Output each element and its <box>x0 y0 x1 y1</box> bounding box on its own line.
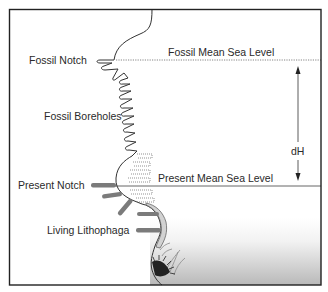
label-fossil-mean-sea-level: Fossil Mean Sea Level <box>168 47 274 58</box>
label-present-mean-sea-level: Present Mean Sea Level <box>158 173 273 184</box>
fossil-boreholes-dotted <box>128 154 154 202</box>
label-fossil-notch: Fossil Notch <box>29 55 87 66</box>
label-dh: dH <box>291 146 304 157</box>
label-fossil-boreholes: Fossil Boreholes <box>44 111 122 122</box>
dh-arrow <box>296 66 301 181</box>
label-living-lithophaga: Living Lithophaga <box>47 225 129 236</box>
diagram-canvas <box>0 0 328 292</box>
uplift-diagram: Fossil Notch Fossil Boreholes Present No… <box>0 0 328 292</box>
label-present-notch: Present Notch <box>18 180 85 191</box>
sea-water <box>150 218 321 285</box>
